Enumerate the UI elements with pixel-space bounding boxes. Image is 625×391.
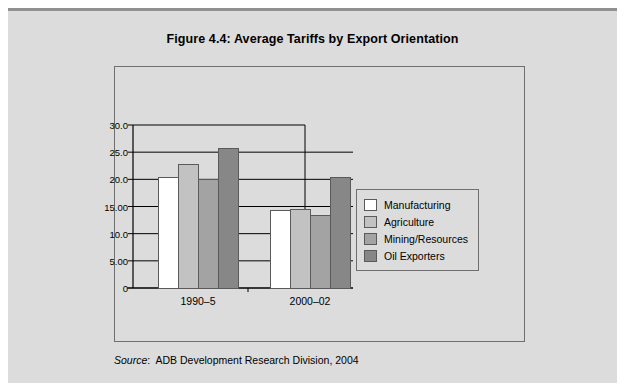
source-separator: : — [147, 354, 150, 366]
legend-swatch-icon — [364, 216, 377, 228]
bar-chart-plot — [8, 11, 617, 386]
bar-agriculture-1 — [290, 209, 310, 288]
legend-label: Oil Exporters — [384, 250, 445, 262]
legend-item-oil-exporters: Oil Exporters — [364, 247, 468, 264]
legend-swatch-icon — [364, 233, 377, 245]
legend-item-manufacturing: Manufacturing — [364, 196, 468, 213]
legend-item-agriculture: Agriculture — [364, 213, 468, 230]
legend-swatch-icon — [364, 250, 377, 262]
figure-panel: Figure 4.4: Average Tariffs by Export Or… — [8, 8, 617, 383]
bar-mining-resources-1 — [310, 216, 330, 288]
legend-label: Mining/Resources — [384, 233, 468, 245]
bar-manufacturing-0 — [158, 177, 178, 288]
bar-manufacturing-1 — [270, 211, 290, 288]
legend-label: Agriculture — [384, 216, 434, 228]
x-tick-label-1: 2000–02 — [290, 295, 331, 307]
source-note: Source: ADB Development Research Divisio… — [114, 354, 359, 366]
x-tick-label-0: 1990–5 — [180, 295, 215, 307]
bar-oil-exporters-1 — [330, 177, 350, 288]
legend-item-mining-resources: Mining/Resources — [364, 230, 468, 247]
source-label: Source — [114, 354, 147, 366]
source-text: ADB Development Research Division, 2004 — [155, 354, 358, 366]
bar-agriculture-0 — [178, 164, 198, 288]
bar-oil-exporters-0 — [218, 148, 238, 288]
legend-label: Manufacturing — [384, 199, 451, 211]
chart-legend: ManufacturingAgricultureMining/Resources… — [356, 189, 479, 271]
legend-swatch-icon — [364, 199, 377, 211]
bar-mining-resources-0 — [198, 179, 218, 288]
